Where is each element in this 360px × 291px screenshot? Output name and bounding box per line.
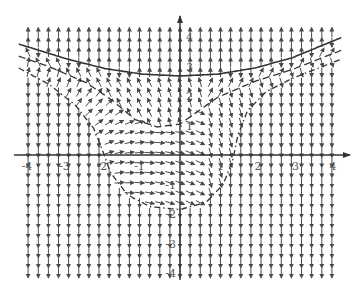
- field-arrow: [219, 128, 222, 137]
- field-arrow: [196, 151, 205, 155]
- field-arrow: [229, 98, 232, 107]
- field-arrow: [219, 178, 222, 187]
- x-tick-label: -1: [134, 160, 145, 173]
- field-arrow: [137, 78, 141, 87]
- x-tick-label: 3: [292, 160, 299, 173]
- field-arrow: [189, 78, 192, 87]
- field-arrow: [186, 201, 195, 205]
- field-arrow: [239, 98, 242, 107]
- field-arrow: [209, 188, 212, 197]
- field-arrow: [148, 108, 152, 116]
- field-arrow: [135, 152, 144, 153]
- field-arrow: [105, 110, 113, 116]
- field-arrow: [165, 172, 174, 174]
- field-arrow: [219, 108, 222, 117]
- y-tick-label: 1: [186, 120, 193, 133]
- x-tick-label: -2: [97, 160, 108, 173]
- field-arrow: [155, 202, 164, 204]
- field-arrow: [208, 88, 212, 97]
- field-arrow: [67, 68, 71, 76]
- field-arrow: [127, 88, 131, 97]
- field-arrow: [115, 141, 124, 144]
- field-arrow: [290, 68, 293, 77]
- field-arrow: [115, 120, 124, 124]
- field-arrow: [125, 162, 134, 163]
- field-arrow: [331, 58, 334, 67]
- field-arrow: [260, 78, 263, 87]
- field-arrow: [57, 78, 60, 87]
- field-arrow: [137, 88, 141, 97]
- field-arrow: [219, 118, 222, 127]
- field-arrow: [186, 141, 195, 144]
- field-arrow: [66, 88, 70, 96]
- field-arrow: [186, 161, 195, 165]
- field-arrow: [279, 68, 283, 76]
- field-arrow: [127, 78, 131, 87]
- field-arrow: [137, 108, 141, 116]
- field-arrow: [135, 182, 144, 183]
- field-arrow: [47, 68, 50, 77]
- field-arrow: [76, 99, 82, 107]
- field-arrow: [127, 98, 131, 106]
- x-tick-label: -4: [22, 160, 33, 173]
- field-arrow: [196, 171, 205, 175]
- field-arrow: [95, 120, 103, 126]
- field-arrow: [155, 192, 164, 194]
- field-arrow: [137, 98, 141, 106]
- field-arrow: [135, 142, 144, 143]
- field-arrow: [196, 181, 205, 185]
- field-arrow: [320, 58, 323, 67]
- field-arrow: [107, 88, 111, 97]
- field-arrow: [199, 98, 202, 107]
- field-arrow: [165, 152, 174, 154]
- field-arrow: [77, 68, 81, 76]
- field-arrow: [209, 148, 212, 157]
- field-arrow: [105, 130, 113, 134]
- field-arrow: [209, 178, 212, 187]
- field-arrow: [229, 128, 232, 137]
- field-arrow: [270, 78, 273, 87]
- field-arrow: [67, 78, 71, 87]
- field-arrow: [155, 152, 164, 153]
- field-arrow: [219, 148, 222, 157]
- field-arrow: [158, 108, 161, 117]
- field-arrow: [208, 78, 212, 87]
- field-arrow: [135, 192, 144, 193]
- field-arrow: [56, 58, 60, 67]
- field-arrow: [196, 161, 205, 165]
- y-tick-label: 4: [186, 31, 193, 44]
- field-arrow: [57, 68, 60, 77]
- field-arrow: [115, 131, 124, 135]
- field-arrow: [107, 78, 111, 87]
- axes: [14, 16, 350, 280]
- field-arrow: [196, 191, 205, 195]
- field-arrow: [125, 131, 134, 134]
- field-arrow: [196, 121, 205, 125]
- field-arrow: [186, 171, 195, 175]
- field-arrow: [280, 78, 283, 87]
- field-arrow: [158, 78, 161, 87]
- field-arrow: [145, 132, 154, 133]
- field-arrow: [87, 68, 91, 76]
- field-arrow: [148, 98, 152, 106]
- x-tick-label: -3: [59, 160, 70, 173]
- field-arrow: [209, 168, 212, 177]
- field-arrow: [269, 68, 273, 76]
- field-arrow: [125, 121, 134, 125]
- field-arrow: [165, 201, 174, 204]
- x-tick-label: 1: [217, 160, 224, 173]
- vector-field-plot: -4-3-2-112344321-1-2-3-4: [0, 0, 360, 291]
- field-arrow: [209, 108, 212, 117]
- field-arrow: [115, 162, 124, 164]
- field-arrow: [77, 78, 81, 87]
- field-arrow: [155, 162, 164, 163]
- field-arrow: [250, 88, 253, 97]
- field-arrow: [145, 192, 154, 194]
- x-tick-label: 4: [330, 160, 337, 173]
- field-arrow: [199, 78, 202, 87]
- field-arrow: [135, 132, 144, 134]
- y-tick-label: -1: [165, 179, 176, 192]
- field-arrow: [165, 191, 174, 194]
- field-arrow: [199, 88, 202, 97]
- field-arrow: [145, 182, 154, 183]
